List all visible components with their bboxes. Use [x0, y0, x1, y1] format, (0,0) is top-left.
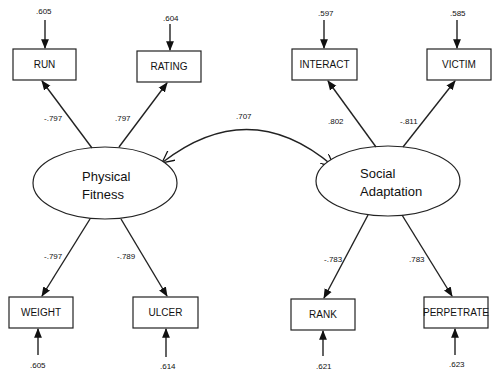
correlation-arrow: .707 [163, 112, 333, 166]
indicator-run: RUN .605 -.797 [13, 7, 92, 148]
indicator-victim: VICTIM .585 -.811 [400, 9, 491, 147]
svg-text:RANK: RANK [309, 309, 337, 320]
svg-text:WEIGHT: WEIGHT [21, 307, 61, 318]
indicator-interact: INTERACT .597 .802 [292, 9, 376, 147]
error-value: .597 [318, 9, 334, 18]
indicator-perpetrate: PERPETRATE .623 .783 [402, 215, 489, 369]
loading-value: .783 [409, 255, 425, 264]
svg-text:RATING: RATING [150, 61, 187, 72]
svg-text:PERPETRATE: PERPETRATE [423, 307, 489, 318]
indicator-weight: WEIGHT .605 -.797 [9, 219, 90, 370]
latent-label-line1: Physical [82, 169, 131, 184]
loading-value: -.789 [117, 252, 136, 261]
error-value: .604 [163, 14, 179, 23]
loading-value: -.797 [44, 252, 63, 261]
error-value: .605 [36, 7, 52, 16]
latent-physical-fitness: Physical Fitness [33, 147, 177, 219]
indicator-rating: RATING .604 .797 [115, 14, 201, 147]
sem-diagram: .707 Physical Fitness Social Adaptation … [0, 0, 497, 377]
loading-value: -.811 [400, 117, 418, 126]
latent-label-line1: Social [360, 166, 396, 181]
svg-text:ULCER: ULCER [149, 307, 183, 318]
indicator-ulcer: ULCER .614 -.789 [117, 219, 198, 371]
latent-social-adaptation: Social Adaptation [316, 146, 460, 216]
latent-label-line2: Fitness [82, 187, 124, 202]
svg-text:VICTIM: VICTIM [442, 59, 476, 70]
svg-text:RUN: RUN [34, 59, 56, 70]
error-value: .605 [30, 361, 46, 370]
correlation-value: .707 [236, 112, 252, 121]
loading-value: -.783 [324, 255, 343, 264]
error-value: .614 [160, 362, 176, 371]
error-value: .585 [450, 9, 466, 18]
error-value: .621 [316, 362, 332, 371]
svg-text:INTERACT: INTERACT [300, 59, 350, 70]
error-value: .623 [449, 360, 465, 369]
loading-value: .797 [115, 114, 131, 123]
indicator-rank: RANK .621 -.783 [291, 215, 368, 371]
loading-value: -.797 [44, 114, 63, 123]
loading-value: .802 [328, 117, 344, 126]
latent-label-line2: Adaptation [360, 184, 422, 199]
